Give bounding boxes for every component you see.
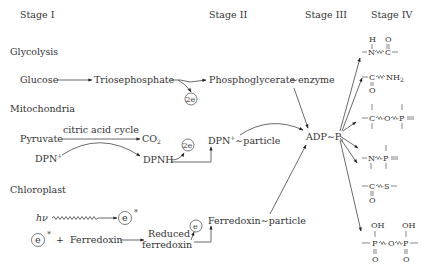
svg-text:S: S: [384, 182, 389, 191]
svg-text:NH2: NH2: [386, 73, 404, 83]
citric-acid-cycle-label: citric acid cycle: [63, 124, 139, 135]
chloroplast-title: Chloroplast: [10, 184, 66, 195]
svg-text:OH: OH: [402, 221, 416, 230]
excited-electron-e: e: [122, 212, 128, 223]
energy-coupling-diagram: Stage I Stage II Stage III Stage IV Glyc…: [0, 0, 432, 269]
svg-text:O: O: [385, 35, 392, 44]
stage-4-header: Stage IV: [371, 9, 412, 20]
plus-sign: +: [56, 234, 64, 245]
product-thioester: C S O: [362, 182, 397, 205]
stage-3-header: Stage III: [305, 9, 347, 20]
electron-pair-label-1: 2e: [186, 95, 196, 104]
svg-text:C: C: [385, 48, 391, 57]
dpn-particle-to-adp-arrow: [240, 124, 303, 135]
glycolysis-title: Glycolysis: [10, 46, 58, 57]
mitochondria-title: Mitochondria: [10, 103, 75, 114]
svg-text:OH: OH: [371, 221, 385, 230]
glucose-label: Glucose: [20, 74, 59, 85]
adp-pi-label: ADP∼Pi: [305, 131, 343, 143]
svg-text:O: O: [369, 86, 376, 95]
hv-label: hν: [36, 212, 48, 223]
enzyme-label: ∼enzyme: [290, 74, 335, 85]
stage-1-header: Stage I: [20, 9, 55, 20]
ferredoxin-particle-to-adp-arrow: [270, 145, 306, 214]
reduced-electron-arrow: [191, 232, 194, 240]
ferredoxin-particle-label: Ferredoxin∼particle: [208, 215, 306, 226]
svg-text:C: C: [369, 114, 375, 123]
co2-label: CO2: [142, 133, 161, 145]
dpnh-label: DPNH: [143, 154, 174, 165]
svg-text:O: O: [403, 255, 410, 264]
dpn-particle-label: DPN+∼particle: [208, 134, 281, 146]
svg-text:N: N: [368, 154, 375, 163]
product-acyl-phosphate: C O P: [362, 104, 414, 129]
arrow-to-amide: [340, 58, 360, 131]
svg-text:P: P: [372, 239, 378, 248]
svg-text:C: C: [369, 73, 375, 82]
reduced-label: Reduced: [148, 228, 190, 239]
svg-text:H: H: [369, 35, 376, 44]
svg-text:N: N: [368, 48, 375, 57]
triose-arrow: [171, 80, 206, 82]
stage-2-header: Stage II: [209, 9, 247, 20]
enzyme-to-adp-arrow: [294, 88, 308, 128]
triosephosphate-label: Triosephosphate: [94, 74, 175, 85]
light-wave-arrow: [52, 217, 117, 220]
product-phosphoramide: N P: [362, 145, 398, 169]
electron-pair-label-2: 2e: [183, 141, 193, 150]
ferredoxin-label: Ferredoxin: [70, 234, 123, 245]
svg-text:O: O: [388, 239, 395, 248]
svg-text:C: C: [369, 182, 375, 191]
svg-text:P: P: [383, 154, 389, 163]
product-amide-bond: H N C O: [362, 35, 398, 57]
svg-text:O: O: [384, 114, 391, 123]
excited-electron-e-2: e: [35, 234, 41, 245]
dpn-label: DPN+: [35, 152, 62, 164]
product-pyrophosphate: OH P O P OH O O: [362, 221, 418, 264]
product-carbamoyl: C NH2 O: [362, 73, 404, 95]
excited-electron-star-2: *: [47, 230, 51, 239]
electron-label-3: e: [193, 222, 198, 231]
svg-text:P: P: [399, 114, 405, 123]
dpn-reduction-arrow: [62, 143, 140, 156]
svg-text:O: O: [372, 255, 379, 264]
svg-text:O: O: [369, 196, 376, 205]
reduced-ferredoxin-label: ferredoxin: [142, 239, 192, 250]
pyruvate-label: Pyruvate: [20, 133, 63, 144]
phosphoglycerate-label: Phosphoglycerate: [209, 74, 295, 85]
excited-electron-star: *: [134, 208, 138, 217]
svg-text:P: P: [403, 239, 409, 248]
